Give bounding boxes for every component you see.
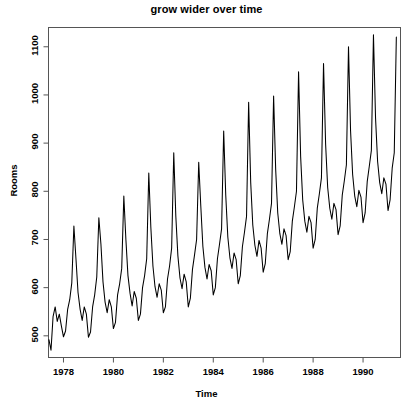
y-tick-label: 500 [28, 317, 39, 351]
x-tick-label: 1978 [43, 366, 83, 377]
y-tick-label: 800 [28, 173, 39, 207]
y-tick-marks [44, 47, 49, 336]
x-tick-label: 1988 [293, 366, 333, 377]
x-tick-label: 1990 [343, 366, 383, 377]
plot-canvas [0, 0, 413, 409]
y-tick-label: 1000 [28, 76, 39, 110]
y-tick-label: 900 [28, 125, 39, 159]
data-series-line [49, 35, 396, 351]
x-tick-marks [63, 358, 363, 363]
y-tick-label: 1100 [28, 28, 39, 62]
time-series-chart: grow wider over time Rooms Time 50060070… [0, 0, 413, 409]
x-tick-label: 1984 [193, 366, 233, 377]
x-tick-label: 1986 [243, 366, 283, 377]
x-tick-label: 1980 [93, 366, 133, 377]
y-tick-label: 700 [28, 221, 39, 255]
x-tick-label: 1982 [143, 366, 183, 377]
y-tick-label: 600 [28, 269, 39, 303]
